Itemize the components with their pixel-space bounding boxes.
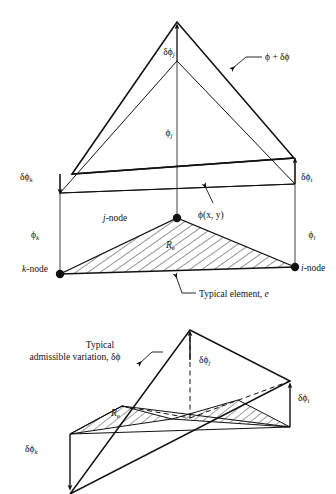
label-phi-j: ϕj xyxy=(166,128,173,140)
label-delta-phi-j-lower: δϕj xyxy=(199,355,210,367)
element-region-Re xyxy=(60,218,295,274)
label-delta-phi-k: δϕk xyxy=(20,172,33,184)
figure-container: δϕj ϕ + δϕ ϕj δϕk δϕi ϕk ϕi j-node k-nod… xyxy=(0,0,336,494)
label-phi-plus-delta-phi: ϕ + δϕ xyxy=(265,52,290,62)
lower-hatched-regions xyxy=(70,400,290,434)
typical-variation-leader xyxy=(140,352,163,363)
phi-plus-deltaphi-leader xyxy=(233,57,262,68)
typical-element-leader xyxy=(176,276,196,293)
label-k-node: k-node xyxy=(22,264,48,274)
label-typical-element: Typical element, e xyxy=(199,289,269,299)
phi-xy-leader xyxy=(205,186,213,203)
varied-function-surface xyxy=(72,22,294,174)
label-delta-phi-j: δϕj xyxy=(163,47,174,59)
label-phi-xy: ϕ(x, y) xyxy=(198,210,224,221)
diagram-svg: δϕj ϕ + δϕ ϕj δϕk δϕi ϕk ϕi j-node k-nod… xyxy=(0,0,336,494)
label-phi-k: ϕk xyxy=(31,230,40,242)
phi-plus-deltaphi-outline xyxy=(72,22,294,174)
trial-function-surface xyxy=(60,61,295,193)
lower-diagram: Typical admissible variation, δϕ δϕj δϕi… xyxy=(25,330,309,494)
j-node-dot xyxy=(173,214,181,222)
i-node-dot xyxy=(291,263,299,271)
upper-diagram: δϕj ϕ + δϕ ϕj δϕk δϕi ϕk ϕi j-node k-nod… xyxy=(20,22,325,299)
label-delta-phi-i: δϕi xyxy=(301,172,312,184)
label-phi-i: ϕi xyxy=(309,230,316,242)
label-i-node: i-node xyxy=(301,263,325,273)
k-node-dot xyxy=(56,270,64,278)
label-j-node: j-node xyxy=(101,213,127,223)
leader-lines-lower xyxy=(140,352,163,363)
label-typical-line1: Typical xyxy=(86,340,115,350)
phi-surface-outline xyxy=(60,61,295,193)
phi-surface-base-edge xyxy=(60,184,295,193)
hidden-construction-edges xyxy=(122,334,290,418)
label-typical-line2: admissible variation, δϕ xyxy=(29,352,120,362)
element-triangle-hatched xyxy=(60,218,295,274)
label-delta-phi-i-lower: δϕi xyxy=(298,393,309,405)
varied-surface-base-edge xyxy=(72,158,294,174)
label-delta-phi-k-lower: δϕk xyxy=(25,444,38,456)
